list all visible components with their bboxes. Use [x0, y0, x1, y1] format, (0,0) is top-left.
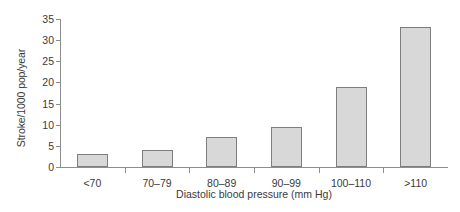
bar — [142, 150, 173, 167]
bar — [336, 87, 367, 167]
y-tick-label: 15 — [42, 98, 54, 109]
x-tick-mark — [189, 168, 190, 173]
y-axis-tick: 20 — [60, 82, 61, 83]
y-axis-tick: 35 — [60, 19, 61, 20]
y-tick-label: 5 — [48, 140, 54, 151]
y-axis-tick: 30 — [60, 40, 61, 41]
bar — [400, 27, 431, 167]
y-tick-mark — [56, 82, 60, 83]
plot-area: 05101520253035 <7070–7980–8990–99100–110… — [60, 19, 448, 167]
y-axis-line — [60, 19, 61, 167]
y-tick-label: 0 — [48, 162, 54, 173]
y-tick-mark — [56, 19, 60, 20]
y-tick-mark — [56, 104, 60, 105]
y-axis-tick: 15 — [60, 104, 61, 105]
y-tick-mark — [56, 167, 60, 168]
y-tick-label: 20 — [42, 77, 54, 88]
y-tick-label: 35 — [42, 14, 54, 25]
bar — [77, 154, 108, 167]
x-tick-mark — [254, 168, 255, 173]
x-tick-mark — [319, 168, 320, 173]
y-tick-label: 25 — [42, 56, 54, 67]
y-tick-mark — [56, 61, 60, 62]
y-axis-tick: 0 — [60, 167, 61, 168]
y-tick-mark — [56, 125, 60, 126]
y-tick-mark — [56, 146, 60, 147]
bar — [206, 137, 237, 167]
y-axis-title: Stroke/1000 pop/year — [14, 14, 28, 182]
x-tick-mark — [383, 168, 384, 173]
y-tick-label: 10 — [42, 119, 54, 130]
x-axis-title: Diastolic blood pressure (mm Hg) — [60, 188, 448, 200]
y-axis-tick: 25 — [60, 61, 61, 62]
y-axis-tick: 10 — [60, 125, 61, 126]
y-tick-mark — [56, 40, 60, 41]
stroke-by-diastolic-bp-bar-chart: Stroke/1000 pop/year 05101520253035 <707… — [0, 0, 460, 212]
x-tick-mark — [125, 168, 126, 173]
y-axis-tick: 5 — [60, 146, 61, 147]
bar — [271, 127, 302, 167]
y-tick-label: 30 — [42, 35, 54, 46]
